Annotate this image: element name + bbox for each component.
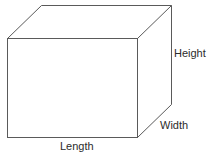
top-face [8, 6, 172, 39]
front-face [8, 39, 138, 138]
length-label: Length [60, 141, 94, 152]
side-face [138, 6, 172, 138]
height-label: Height [174, 48, 206, 59]
width-label: Width [160, 120, 188, 131]
